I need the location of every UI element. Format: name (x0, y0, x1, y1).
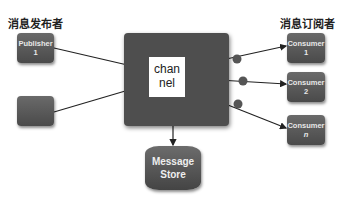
consumer-label: Consumer (287, 121, 325, 130)
consumer-number: n (287, 130, 325, 139)
consumer-n-box: Consumer n (287, 115, 325, 145)
publisher-label: Publisher (17, 39, 54, 48)
store-label-1: Message (145, 155, 201, 168)
channel-label: chan nel (149, 57, 185, 97)
consumer-1-box: Consumer 1 (287, 33, 325, 63)
channel-text-2: nel (149, 77, 185, 91)
subscription-node-icon (234, 100, 243, 109)
consumer-number: 2 (287, 87, 325, 96)
subscription-node-icon (239, 77, 248, 86)
publisher-1-box: Publisher 1 (17, 33, 54, 63)
consumer-label: Consumer (287, 39, 325, 48)
publisher-2-box (17, 96, 54, 126)
subscribers-heading: 消息订阅者 (280, 15, 335, 31)
message-store-cylinder: Message Store (145, 146, 201, 190)
consumer-label: Consumer (287, 78, 325, 87)
publishers-heading: 消息发布者 (8, 15, 63, 31)
subscription-node-icon (233, 55, 242, 64)
publisher-number: 1 (17, 48, 54, 57)
consumer-2-box: Consumer 2 (287, 72, 325, 102)
consumer-number: 1 (287, 48, 325, 57)
store-label-2: Store (145, 168, 201, 181)
channel-text-1: chan (149, 63, 185, 77)
